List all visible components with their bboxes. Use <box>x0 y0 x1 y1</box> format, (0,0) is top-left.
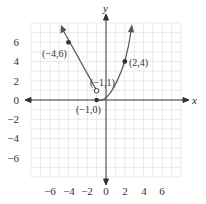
x-tick: 0 <box>103 185 109 197</box>
point-2-4 <box>122 59 127 64</box>
y-tick: −4 <box>7 132 19 144</box>
label-neg4-6: (−4,6) <box>42 48 67 60</box>
point-neg1-0 <box>94 98 99 103</box>
right-branch <box>97 31 131 101</box>
y-axis-arrow-up-icon <box>104 14 109 20</box>
y-tick: 0 <box>14 94 20 106</box>
left-branch-arrow-icon <box>61 25 67 34</box>
x-axis-label: x <box>191 94 197 106</box>
y-axis-label: y <box>102 2 108 14</box>
x-tick-labels: −6 −4 −2 0 2 4 6 <box>44 185 165 197</box>
x-tick: 6 <box>159 185 165 197</box>
y-tick-labels: 6 4 2 0 −2 −4 −6 <box>7 36 19 164</box>
x-axis-arrow-right-icon <box>183 98 189 103</box>
y-tick: −2 <box>7 113 19 125</box>
x-tick: −2 <box>81 185 93 197</box>
point-neg1-1-open <box>94 89 99 94</box>
x-tick: −4 <box>63 185 75 197</box>
x-tick: −6 <box>44 185 56 197</box>
y-tick: 6 <box>14 36 20 48</box>
y-tick: 2 <box>14 75 20 87</box>
label-neg1-1: (−1,1) <box>90 77 115 89</box>
y-tick: −6 <box>7 152 19 164</box>
label-neg1-0: (−1,0) <box>76 104 101 116</box>
x-tick: 4 <box>141 185 147 197</box>
graph: x y 6 4 2 0 −2 −4 −6 −6 −4 −2 0 2 4 6 (−… <box>0 0 206 204</box>
x-tick: 2 <box>122 185 128 197</box>
x-axis-arrow-left-icon <box>25 98 31 103</box>
point-neg4-6 <box>66 40 71 45</box>
right-branch-arrow-icon <box>128 24 134 33</box>
label-2-4: (2,4) <box>129 57 148 69</box>
y-tick: 4 <box>14 55 20 67</box>
